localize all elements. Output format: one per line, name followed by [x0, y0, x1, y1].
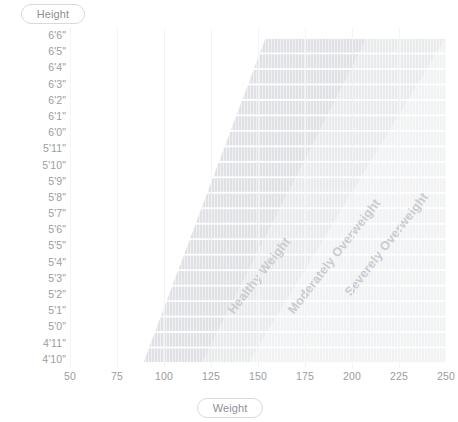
y-tick-label: 5'5" — [4, 239, 66, 251]
bmi-height-weight-chart: Height 6'6"6'5"6'4"6'3"6'2"6'1"6'0"5'11"… — [0, 0, 458, 422]
x-tick-label: 50 — [64, 370, 76, 382]
x-tick-label: 150 — [249, 370, 267, 382]
y-tick-label: 4'11" — [4, 337, 66, 349]
y-tick-label: 6'2" — [4, 94, 66, 106]
plot-area: Healthy WeightModerately OverweightSever… — [70, 28, 446, 368]
x-axis-ticks: 5075100125150175200225250 — [0, 370, 458, 388]
y-tick-label: 4'10" — [4, 353, 66, 365]
vertical-gridline — [117, 28, 118, 368]
vertical-gridline — [399, 28, 400, 368]
y-tick-label: 5'7" — [4, 207, 66, 219]
y-tick-label: 6'3" — [4, 78, 66, 90]
y-tick-label: 6'1" — [4, 110, 66, 122]
vertical-gridline — [211, 28, 212, 368]
y-tick-label: 5'9" — [4, 175, 66, 187]
y-tick-label: 5'2" — [4, 288, 66, 300]
y-tick-label: 6'6" — [4, 29, 66, 41]
y-tick-label: 5'3" — [4, 272, 66, 284]
vertical-gridline — [352, 28, 353, 368]
x-tick-label: 75 — [111, 370, 123, 382]
vertical-gridline — [258, 28, 259, 368]
weight-axis-pill[interactable]: Weight — [197, 398, 263, 418]
y-tick-label: 6'0" — [4, 126, 66, 138]
vertical-gridline — [305, 28, 306, 368]
x-tick-label: 225 — [390, 370, 408, 382]
y-tick-label: 5'8" — [4, 191, 66, 203]
x-tick-label: 100 — [155, 370, 173, 382]
x-tick-label: 175 — [296, 370, 314, 382]
x-tick-label: 125 — [202, 370, 220, 382]
y-axis-ticks: 6'6"6'5"6'4"6'3"6'2"6'1"6'0"5'11"5'10"5'… — [0, 28, 66, 368]
y-tick-label: 6'4" — [4, 61, 66, 73]
height-axis-pill[interactable]: Height — [21, 4, 85, 24]
vertical-gridline — [164, 28, 165, 368]
y-tick-label: 5'10" — [4, 159, 66, 171]
y-tick-label: 5'0" — [4, 320, 66, 332]
y-tick-label: 5'6" — [4, 223, 66, 235]
y-tick-label: 5'4" — [4, 256, 66, 268]
y-tick-label: 5'11" — [4, 142, 66, 154]
vertical-gridline — [70, 28, 71, 368]
x-tick-label: 250 — [437, 370, 455, 382]
y-tick-label: 5'1" — [4, 304, 66, 316]
y-tick-label: 6'5" — [4, 45, 66, 57]
x-tick-label: 200 — [343, 370, 361, 382]
